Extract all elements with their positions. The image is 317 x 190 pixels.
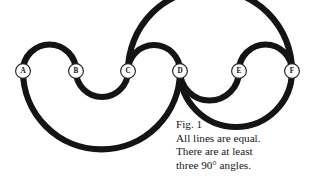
caption-line-1: All lines are equal. [176, 132, 308, 146]
caption-fig-number: Fig. 1 [176, 118, 308, 132]
arc-b-c-below [76, 71, 128, 97]
node-label-a: A [20, 67, 26, 75]
node-label-e: E [237, 67, 242, 75]
node-e[interactable]: E [232, 64, 247, 79]
figure-container: ABCDEF Fig. 1 All lines are equal. There… [0, 0, 317, 190]
caption-line-2: There are at least [176, 145, 308, 159]
figure-caption: Fig. 1 All lines are equal. There are at… [176, 118, 308, 172]
caption-line-3: three 90° angles. [176, 159, 308, 173]
node-label-c: C [125, 67, 130, 75]
arc-a-d-below [23, 71, 180, 149]
node-d[interactable]: D [173, 64, 188, 79]
node-label-f: F [290, 67, 295, 75]
node-b[interactable]: B [69, 64, 84, 79]
arc-c-d-above [128, 45, 180, 71]
nodes-layer: ABCDEF [16, 64, 300, 79]
node-label-d: D [177, 67, 182, 75]
arc-c-f-above [128, 0, 292, 71]
node-label-b: B [74, 67, 79, 75]
node-a[interactable]: A [16, 64, 31, 79]
arc-e-f-above [239, 45, 292, 72]
node-c[interactable]: C [121, 64, 136, 79]
node-f[interactable]: F [285, 64, 300, 79]
arc-a-b-above [23, 45, 76, 72]
